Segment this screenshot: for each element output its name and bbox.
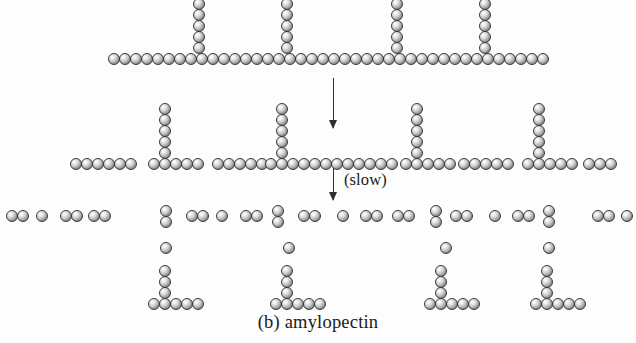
fragment-branch-glucose-unit (159, 147, 171, 159)
limit-dextrin-stem-glucose-unit (159, 265, 171, 277)
limit-dextrin-stem-glucose-unit (435, 265, 447, 277)
vertical-pair-glucose-unit (160, 205, 172, 217)
lone-glucose-unit (283, 242, 295, 254)
fragment-branch-glucose-unit (159, 125, 171, 137)
fragment-glucose-unit (444, 158, 456, 170)
maltose-pair-glucose-unit (603, 210, 615, 222)
fragment-branch-glucose-unit (276, 114, 288, 126)
amylopectin-diagram: (slow) (b) amylopectin (0, 0, 636, 343)
branch-glucose-unit (479, 20, 491, 32)
branch-glucose-unit (479, 42, 491, 54)
limit-dextrin-glucose-unit (468, 298, 480, 310)
fragment-branch-glucose-unit (159, 114, 171, 126)
slow-step-label: (slow) (344, 170, 387, 190)
branch-glucose-unit (193, 31, 205, 43)
maltose-pair-glucose-unit (197, 210, 209, 222)
limit-dextrin-stem-glucose-unit (281, 287, 293, 299)
branch-glucose-unit (281, 9, 293, 21)
maltose-pair-glucose-unit (371, 210, 383, 222)
maltose-pair-glucose-unit (523, 210, 535, 222)
vertical-pair-glucose-unit (543, 216, 555, 228)
lone-glucose-unit (160, 242, 172, 254)
lone-glucose-unit (543, 242, 555, 254)
fragment-branch-glucose-unit (276, 125, 288, 137)
branch-glucose-unit (391, 20, 403, 32)
limit-dextrin-stem-glucose-unit (281, 276, 293, 288)
maltose-pair-glucose-unit (99, 210, 111, 222)
limit-dextrin-glucose-unit (314, 298, 326, 310)
branch-glucose-unit (479, 9, 491, 21)
branch-glucose-unit (391, 42, 403, 54)
limit-dextrin-stem-glucose-unit (541, 287, 553, 299)
hydrolysis-arrow-2 (333, 168, 334, 200)
fragment-branch-glucose-unit (533, 147, 545, 159)
branch-glucose-unit (391, 31, 403, 43)
limit-dextrin-stem-glucose-unit (159, 287, 171, 299)
fragment-branch-glucose-unit (276, 103, 288, 115)
branch-glucose-unit (391, 9, 403, 21)
hydrolysis-arrow-1 (333, 78, 334, 128)
limit-dextrin-stem-glucose-unit (159, 276, 171, 288)
maltose-pair-glucose-unit (403, 210, 415, 222)
figure-caption: (b) amylopectin (0, 312, 636, 333)
arrow-head (329, 120, 337, 129)
limit-dextrin-glucose-unit (574, 298, 586, 310)
glucose-single-glucose-unit (621, 210, 633, 222)
backbone-glucose-unit (537, 53, 549, 65)
fragment-branch-glucose-unit (411, 103, 423, 115)
branch-glucose-unit (193, 0, 205, 10)
lone-glucose-unit (440, 242, 452, 254)
fragment-glucose-unit (605, 158, 617, 170)
vertical-pair-glucose-unit (160, 216, 172, 228)
fragment-branch-glucose-unit (533, 114, 545, 126)
fragment-branch-glucose-unit (411, 136, 423, 148)
branch-glucose-unit (479, 0, 491, 10)
branch-glucose-unit (391, 0, 403, 10)
fragment-branch-glucose-unit (411, 147, 423, 159)
limit-dextrin-stem-glucose-unit (281, 265, 293, 277)
fragment-branch-glucose-unit (276, 136, 288, 148)
glucose-single-glucose-unit (337, 210, 349, 222)
limit-dextrin-stem-glucose-unit (541, 276, 553, 288)
vertical-pair-glucose-unit (430, 216, 442, 228)
maltose-pair-glucose-unit (461, 210, 473, 222)
fragment-branch-glucose-unit (533, 136, 545, 148)
branch-glucose-unit (281, 20, 293, 32)
glucose-single-glucose-unit (216, 210, 228, 222)
fragment-branch-glucose-unit (276, 147, 288, 159)
fragment-branch-glucose-unit (533, 125, 545, 137)
limit-dextrin-stem-glucose-unit (435, 287, 447, 299)
branch-glucose-unit (479, 31, 491, 43)
fragment-branch-glucose-unit (411, 125, 423, 137)
limit-dextrin-stem-glucose-unit (435, 276, 447, 288)
fragment-branch-glucose-unit (411, 114, 423, 126)
fragment-glucose-unit (566, 158, 578, 170)
branch-glucose-unit (281, 0, 293, 10)
glucose-single-glucose-unit (36, 210, 48, 222)
fragment-branch-glucose-unit (159, 103, 171, 115)
arrow-head (329, 192, 337, 201)
vertical-pair-glucose-unit (272, 216, 284, 228)
branch-glucose-unit (281, 31, 293, 43)
fragment-glucose-unit (125, 158, 137, 170)
limit-dextrin-stem-glucose-unit (541, 265, 553, 277)
fragment-branch-glucose-unit (159, 136, 171, 148)
glucose-single-glucose-unit (489, 210, 501, 222)
maltose-pair-glucose-unit (309, 210, 321, 222)
fragment-glucose-unit (386, 158, 398, 170)
branch-glucose-unit (193, 42, 205, 54)
branch-glucose-unit (281, 42, 293, 54)
maltose-pair-glucose-unit (71, 210, 83, 222)
maltose-pair-glucose-unit (17, 210, 29, 222)
vertical-pair-glucose-unit (430, 205, 442, 217)
branch-glucose-unit (193, 20, 205, 32)
fragment-glucose-unit (192, 158, 204, 170)
limit-dextrin-glucose-unit (192, 298, 204, 310)
fragment-glucose-unit (502, 158, 514, 170)
vertical-pair-glucose-unit (272, 205, 284, 217)
fragment-branch-glucose-unit (533, 103, 545, 115)
vertical-pair-glucose-unit (543, 205, 555, 217)
maltose-pair-glucose-unit (251, 210, 263, 222)
branch-glucose-unit (193, 9, 205, 21)
